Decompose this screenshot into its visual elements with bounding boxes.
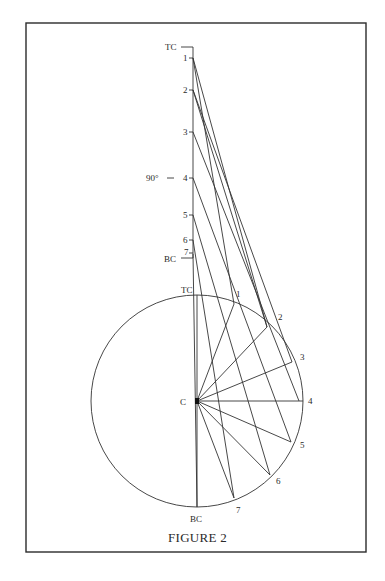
figure-caption: FIGURE 2	[168, 530, 227, 545]
tick-label-3: 3	[183, 127, 188, 137]
projection-lines	[193, 58, 299, 507]
tick-label-6: 6	[183, 235, 188, 245]
circle-center-label: C	[180, 397, 186, 407]
circle-point-label-2: 2	[278, 312, 283, 322]
circle-point-label-5: 5	[300, 440, 305, 450]
circle-bc-label: BC	[190, 514, 202, 524]
radius-7	[197, 401, 234, 498]
circle-construction: TC C BC 1 2 3 4 5 6 7	[91, 285, 313, 524]
tick-label-1: 1	[183, 53, 188, 63]
radius-3	[197, 362, 292, 401]
axis-bc-label: BC	[164, 254, 176, 264]
radius-2	[197, 327, 267, 401]
figure-frame	[26, 23, 366, 552]
radius-5	[197, 401, 291, 442]
tick-label-7: 7	[184, 247, 189, 257]
projection-line-7	[193, 254, 197, 507]
projection-line-3	[193, 132, 299, 401]
vertical-scale: TC 1 2 3 4 90° 5 6 7 BC	[146, 42, 193, 264]
tick-label-4: 4	[183, 173, 188, 183]
ninety-degree-label: 90°	[146, 173, 159, 183]
circle-point-label-7: 7	[236, 505, 241, 515]
radius-1	[197, 304, 234, 401]
circle-tc-label: TC	[181, 285, 193, 295]
projection-line-1	[193, 58, 234, 304]
tick-label-2: 2	[183, 85, 188, 95]
center-point	[195, 398, 199, 404]
axis-tc-label: TC	[165, 42, 177, 52]
circle-point-label-4: 4	[308, 396, 313, 406]
circle-point-label-6: 6	[276, 476, 281, 486]
projection-line-4	[193, 178, 291, 442]
circle-point-label-1: 1	[236, 289, 241, 299]
tick-label-5: 5	[183, 210, 188, 220]
circle-point-label-3: 3	[300, 352, 305, 362]
figure-2-diagram: TC 1 2 3 4 90° 5 6 7 BC	[0, 0, 385, 581]
